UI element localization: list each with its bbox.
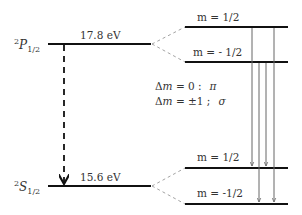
zeeman-transitions: [252, 28, 274, 202]
pi-selection-rule: Δm = 0 :π: [155, 80, 218, 92]
upper-level-group: 2P1/2 17.8 eV: [14, 29, 151, 54]
lower-level-group: 2S1/2 15.6 eV: [14, 171, 151, 196]
sublevel-upper-plus-label: m = 1/2: [197, 11, 239, 23]
zeeman-sublevels: m = 1/2 m = - 1/2 m = 1/2 m = -1/2: [185, 11, 288, 204]
upper-energy-label: 17.8 eV: [80, 29, 121, 41]
sublevel-upper-minus-label: m = - 1/2: [193, 46, 242, 58]
splitting-connectors: [152, 27, 185, 204]
upper-term-label: 2P1/2: [14, 37, 40, 54]
energy-level-diagram: 2P1/2 17.8 eV 2S1/2 15.6 eV m = 1/2 m = …: [0, 0, 302, 215]
sublevel-lower-plus-label: m = 1/2: [197, 151, 239, 163]
sublevel-lower-minus-label: m = -1/2: [197, 187, 243, 199]
sigma-selection-rule: Δm = ±1 ;σ: [155, 95, 226, 107]
lower-energy-label: 15.6 eV: [80, 171, 121, 183]
lower-term-label: 2S1/2: [14, 179, 40, 196]
